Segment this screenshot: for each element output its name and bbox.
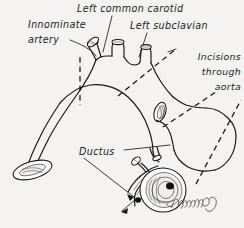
label-left-common-carotid: Left common carotid: [77, 3, 184, 14]
label-ductus: Ductus: [79, 146, 115, 157]
distal-vessel-right-wall: [215, 136, 236, 170]
label-incisions-line3: aorta: [215, 81, 241, 92]
innominate-stump-right-wall: [97, 42, 101, 57]
ductus-outer-mark: [135, 197, 141, 203]
arch-distal-upper-wall: [151, 63, 173, 97]
leader-ductus-arrow: [84, 158, 134, 197]
arch-top-middle-segment: [124, 57, 140, 65]
arrowhead-ductus: [127, 194, 134, 201]
label-innominate-line1: Innominate: [28, 19, 86, 30]
incision-dashed-lower-right: [196, 100, 241, 184]
arch-inferior-wall: [60, 85, 153, 152]
label-incisions-line1: Incisions: [198, 51, 241, 62]
distal-vessel-top-wall: [173, 97, 206, 108]
incision-dashed-diagonal-distal: [163, 92, 216, 127]
leader-left-common-carotid: [103, 16, 112, 52]
incision-dashed-diagonal-upper: [118, 49, 176, 96]
label-incisions-line2: through: [202, 66, 241, 77]
label-left-subclavian: Left subclavian: [130, 20, 208, 31]
distal-vessel-bottom-wall: [174, 150, 215, 171]
label-innominate-line2: artery: [28, 34, 59, 45]
arch-top-left-segment: [96, 56, 112, 60]
leader-ductus-horizontal: [124, 145, 170, 150]
aorta-left-inner-wall: [28, 103, 60, 165]
distal-vessel-upper-right: [206, 108, 236, 136]
ductus-orifice: [166, 182, 174, 189]
aortic-arch-diagram: Innominate artery Left common carotid Le…: [0, 0, 244, 228]
